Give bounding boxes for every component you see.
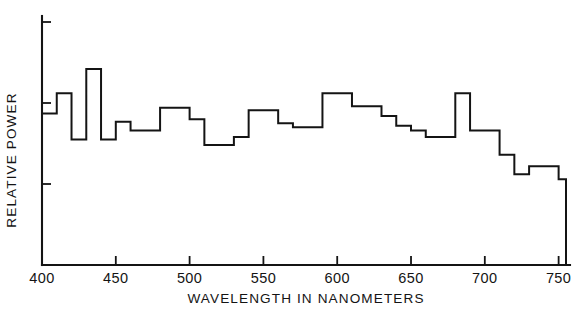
x-axis-tick-label: 400 [29,270,54,286]
x-axis-tick-label: 650 [398,270,423,286]
y-axis-ticks [42,22,51,265]
x-axis-title: WAVELENGTH IN NANOMETERS [187,291,424,306]
x-axis-tick-label: 550 [251,270,276,286]
x-axis-tick-label: 600 [325,270,350,286]
spectrum-step-line [42,69,566,265]
x-axis-tick-labels: 400450500550600650700750 [29,270,571,286]
chart-figure: 400450500550600650700750 WAVELENGTH IN N… [0,0,586,320]
x-axis-tick-label: 700 [472,270,497,286]
x-axis-tick-label: 450 [103,270,128,286]
x-axis-ticks [42,256,559,265]
x-axis-tick-label: 500 [177,270,202,286]
axis-group [42,16,570,265]
x-axis-tick-label: 750 [546,270,571,286]
relative-power-spectrum-chart: 400450500550600650700750 WAVELENGTH IN N… [0,0,586,320]
y-axis-title: RELATIVE POWER [4,92,19,227]
